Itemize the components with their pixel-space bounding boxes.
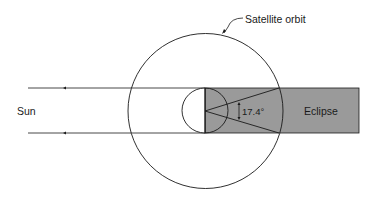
- sun-label: Sun: [17, 105, 36, 117]
- eclipse-diagram: Satellite orbit Sun Eclipse 17.4°: [0, 0, 375, 197]
- eclipse-label: Eclipse: [304, 105, 338, 117]
- arrow-icon: [63, 132, 66, 135]
- earth-lit-half: [182, 88, 205, 133]
- orbit-leader: [224, 18, 243, 33]
- arrow-icon: [63, 87, 66, 90]
- angle-label: 17.4°: [242, 106, 264, 117]
- orbit-label: Satellite orbit: [245, 13, 306, 25]
